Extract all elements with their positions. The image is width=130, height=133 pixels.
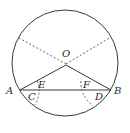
label-E: E	[37, 79, 46, 90]
label-O: O	[62, 48, 70, 59]
label-B: B	[113, 85, 121, 96]
diagram-svg: O A B E F C D	[0, 0, 130, 133]
label-D: D	[94, 91, 103, 102]
label-C: C	[28, 91, 36, 102]
geometry-diagram: O A B E F C D	[0, 0, 130, 133]
label-A: A	[5, 85, 13, 96]
dashed-line-upper-left	[19, 38, 66, 64]
dashed-line-upper-right	[66, 37, 111, 64]
label-F: F	[82, 79, 91, 90]
